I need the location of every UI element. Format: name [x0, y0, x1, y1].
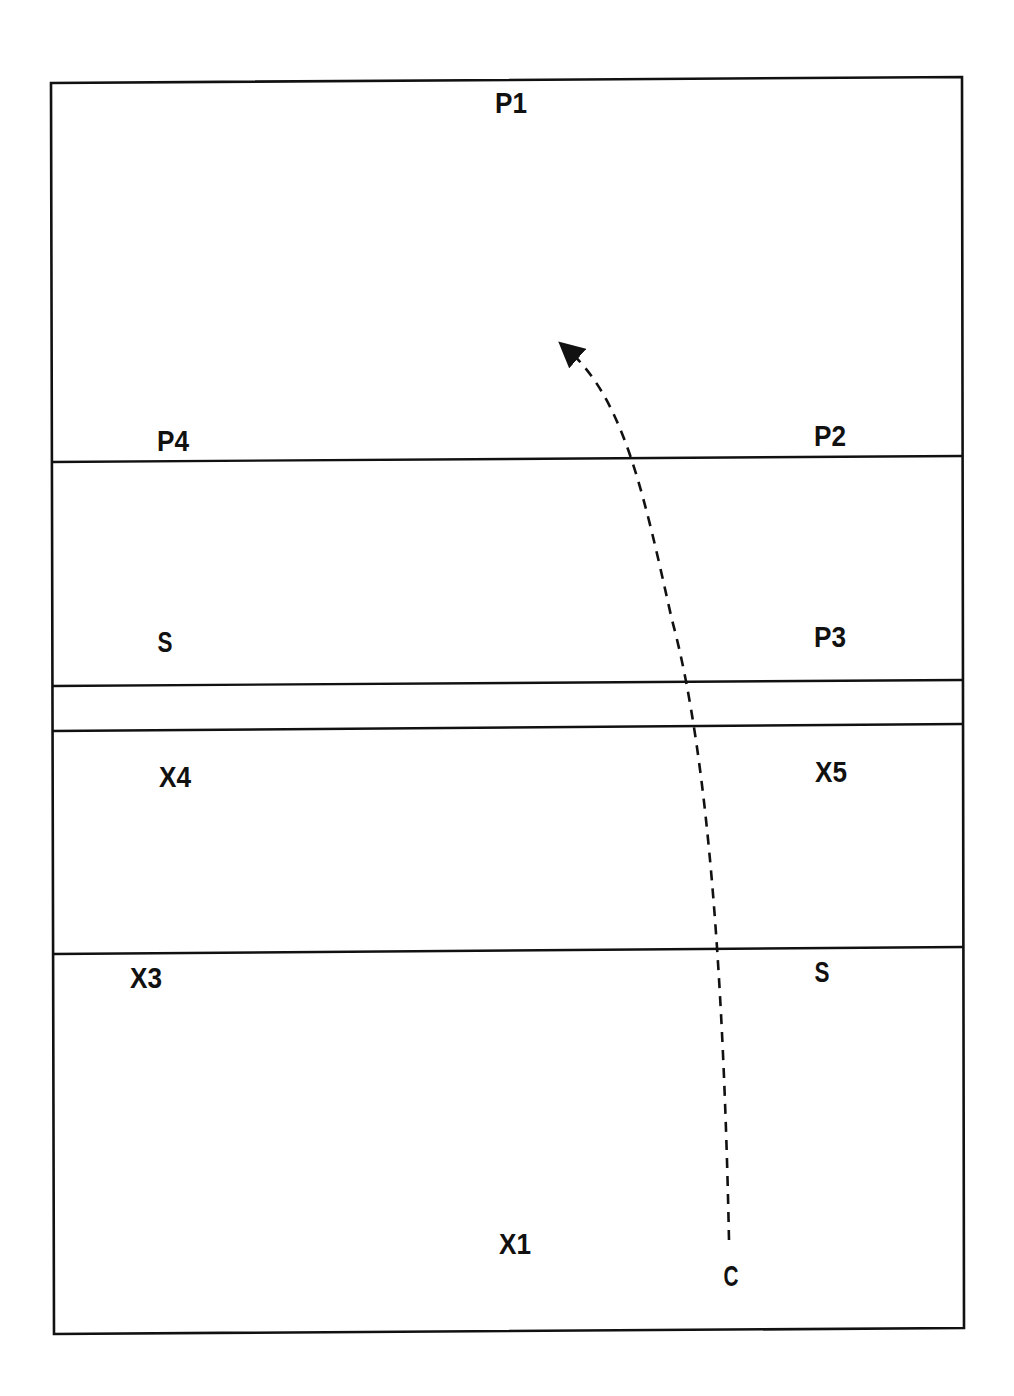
- court-line-3: [52, 724, 962, 731]
- position-label-x3: X3: [130, 961, 162, 994]
- position-label-p3: P3: [814, 620, 846, 653]
- court-line-4: [53, 947, 963, 954]
- court-lines: [51, 456, 963, 954]
- position-label-s-left: S: [158, 625, 173, 658]
- movement-path-arrow: [568, 350, 729, 1240]
- position-label-x1: X1: [499, 1227, 531, 1260]
- court-diagram: P1P4P2SP3X4X5X3SX1C: [0, 0, 1014, 1396]
- position-label-p4: P4: [157, 424, 189, 457]
- position-label-p2: P2: [814, 419, 846, 452]
- court-border: [51, 77, 964, 1334]
- position-label-p1: P1: [495, 86, 527, 119]
- position-label-x4: X4: [159, 760, 191, 793]
- position-labels: P1P4P2SP3X4X5X3SX1C: [130, 86, 847, 1292]
- court-line-2: [52, 680, 962, 686]
- position-label-x5: X5: [815, 755, 847, 788]
- position-label-s-right: S: [815, 955, 830, 988]
- position-label-c: C: [724, 1259, 739, 1292]
